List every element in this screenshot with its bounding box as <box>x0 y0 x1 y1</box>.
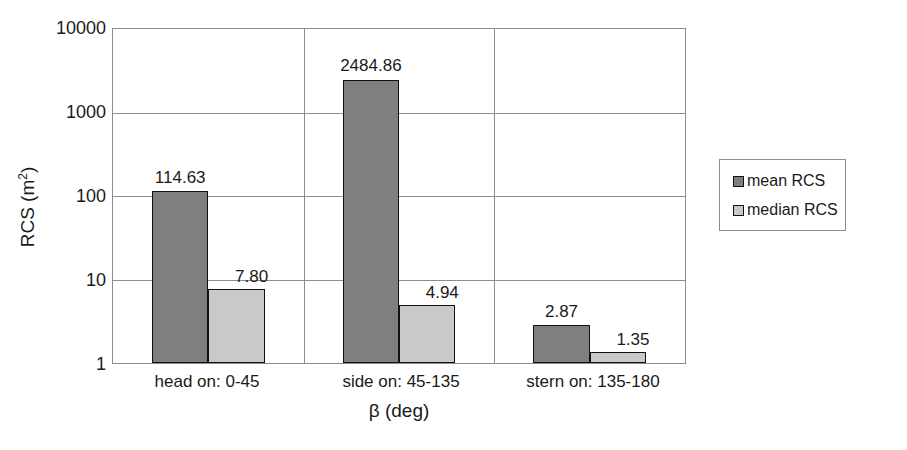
legend-item-median: median RCS <box>733 202 838 218</box>
value-label-mean-side-on: 2484.86 <box>317 57 424 74</box>
chart-figure: RCS (m2) 10000 1000 100 10 1 114.63 7.80… <box>0 0 907 450</box>
category-divider-1 <box>304 29 305 363</box>
y-tick-label-10: 10 <box>26 271 106 289</box>
y-tick-label-100: 100 <box>26 187 106 205</box>
legend-label-median: median RCS <box>747 202 838 218</box>
gridline-1000 <box>113 113 685 114</box>
legend-label-mean: mean RCS <box>747 173 825 189</box>
value-label-median-head-on: 7.80 <box>209 268 293 285</box>
category-divider-2 <box>494 29 495 363</box>
legend-item-mean: mean RCS <box>733 173 825 189</box>
category-label-side-on: side on: 45-135 <box>302 372 500 392</box>
legend-swatch-median-icon <box>733 205 744 216</box>
value-label-mean-stern-on: 2.87 <box>508 303 615 320</box>
bar-mean-side-on <box>343 80 399 364</box>
value-label-median-side-on: 4.94 <box>400 284 484 301</box>
bar-median-stern-on <box>590 352 646 363</box>
y-axis-tick-labels: 10000 1000 100 10 1 <box>22 0 106 450</box>
plot-area: 114.63 7.80 2484.86 4.94 2.87 1.35 <box>112 28 686 364</box>
bar-median-head-on <box>208 289 264 363</box>
chart-legend: mean RCS median RCS <box>719 159 846 231</box>
y-tick-label-1: 1 <box>26 355 106 373</box>
bar-mean-stern-on <box>533 325 589 363</box>
bar-median-side-on <box>399 305 455 363</box>
y-tick-label-10000: 10000 <box>26 19 106 37</box>
y-tick-label-1000: 1000 <box>26 103 106 121</box>
x-axis-title: β (deg) <box>112 400 686 422</box>
value-label-mean-head-on: 114.63 <box>127 169 234 186</box>
bar-mean-head-on <box>152 191 208 363</box>
value-label-median-stern-on: 1.35 <box>591 331 675 348</box>
category-label-stern-on: stern on: 135-180 <box>500 372 686 392</box>
legend-swatch-mean-icon <box>733 176 744 187</box>
category-label-head-on: head on: 0-45 <box>112 372 302 392</box>
